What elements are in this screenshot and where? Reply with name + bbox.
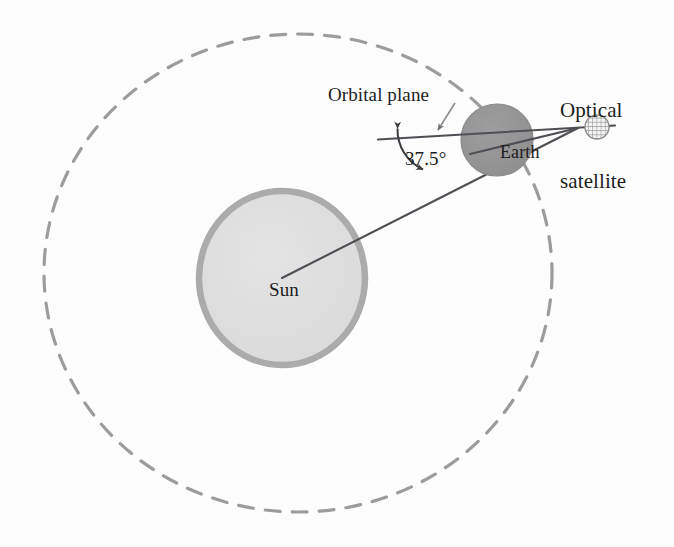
optical-satellite-label-line2: satellite [560, 170, 626, 194]
orbital-plane-leader-line [438, 103, 455, 130]
earth-body [461, 104, 533, 176]
optical-satellite-label-line1: Optical [560, 99, 626, 123]
orbital-plane-label: Orbital plane [328, 84, 429, 105]
diagram-canvas: Optical satellite Orbital plane Earth Su… [0, 0, 674, 547]
angle-value-label: 37.5° [405, 148, 446, 169]
earth-label: Earth [500, 142, 539, 162]
optical-satellite-label: Optical satellite [560, 52, 626, 240]
sun-label: Sun [269, 279, 299, 300]
